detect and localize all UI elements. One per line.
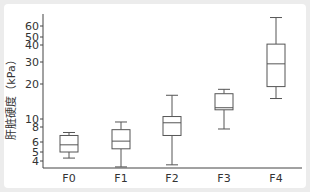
- iqr-box: [60, 135, 78, 152]
- iqr-box: [267, 44, 285, 86]
- y-tick-label: 6: [32, 136, 39, 149]
- y-tick-label: 20: [25, 78, 39, 91]
- x-tick-label: F3: [217, 172, 230, 185]
- box-f2: [163, 95, 181, 165]
- x-tick-label: F0: [62, 172, 75, 185]
- x-tick-label: F1: [114, 172, 127, 185]
- y-tick-label: 60: [25, 20, 39, 33]
- iqr-box: [163, 117, 181, 136]
- y-tick-label: 30: [25, 56, 39, 69]
- y-tick-label: 10: [25, 113, 39, 126]
- y-axis-title: 肝脏硬度（kPa）: [4, 54, 18, 139]
- boxes: F0F1F2F3F4: [60, 18, 285, 185]
- box-plot-chart: 4568102030405060 F0F1F2F3F4 肝脏硬度（kPa）: [0, 0, 310, 192]
- box-f1: [112, 122, 130, 167]
- iqr-box: [112, 130, 130, 149]
- box-f3: [215, 89, 233, 129]
- x-tick-label: F2: [165, 172, 178, 185]
- x-tick-label: F4: [269, 172, 282, 185]
- box-f0: [60, 132, 78, 158]
- box-f4: [267, 18, 285, 99]
